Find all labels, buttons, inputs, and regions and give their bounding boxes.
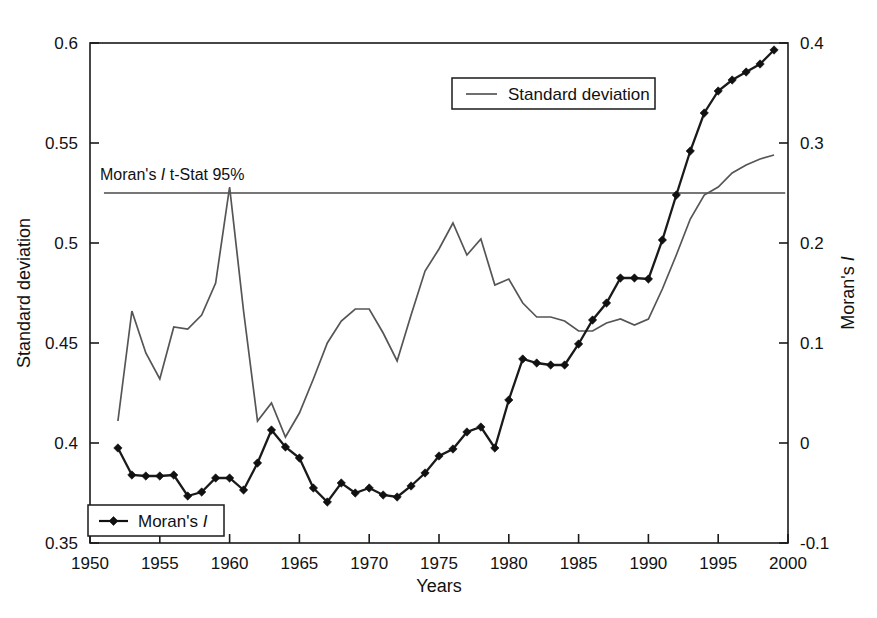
morans-i-data-point — [142, 472, 150, 480]
tstat-annotation-label: Moran's I t-Stat 95% — [100, 166, 244, 183]
y2-tick-label: 0 — [800, 434, 809, 453]
legend-morans-i-label: Moran's I — [138, 512, 208, 531]
series-morans-i — [114, 46, 779, 506]
chart-canvas: 1950195519601965197019751980198519901995… — [0, 0, 877, 618]
x-axis-title: Years — [416, 576, 461, 596]
x-tick-label: 1965 — [280, 554, 318, 573]
y-tick-label: 0.35 — [45, 534, 78, 553]
y2-tick-label: 0.3 — [800, 134, 824, 153]
morans-i-data-point — [630, 274, 638, 282]
x-axis-ticks: 1950195519601965197019751980198519901995… — [71, 534, 807, 573]
y-axis-right-title: Moran's I — [838, 256, 858, 329]
legend-morans-i[interactable]: Moran's I — [88, 505, 224, 536]
y2-tick-label: 0.2 — [800, 234, 824, 253]
morans-i-data-point — [379, 491, 387, 499]
plot-frame — [90, 43, 788, 543]
legend-standard-deviation-label: Standard deviation — [508, 85, 650, 104]
morans-i-data-point — [672, 191, 680, 199]
morans-i-data-point — [156, 472, 164, 480]
morans-i-data-point — [519, 355, 527, 363]
legend-standard-deviation[interactable]: Standard deviation — [452, 78, 655, 109]
x-tick-label: 1975 — [420, 554, 458, 573]
y-axis-left-ticks: 0.350.40.450.50.550.6 — [45, 34, 99, 553]
x-tick-label: 2000 — [769, 554, 807, 573]
x-tick-label: 1950 — [71, 554, 109, 573]
morans-i-data-point — [505, 396, 513, 404]
morans-i-data-point — [128, 471, 136, 479]
y-tick-label: 0.5 — [54, 234, 78, 253]
y2-tick-label: 0.1 — [800, 334, 824, 353]
x-tick-label: 1980 — [490, 554, 528, 573]
x-tick-label: 1960 — [211, 554, 249, 573]
y2-tick-label: 0.4 — [800, 34, 824, 53]
chart-figure: 1950195519601965197019751980198519901995… — [0, 0, 877, 618]
y-tick-label: 0.45 — [45, 334, 78, 353]
y-tick-label: 0.4 — [54, 434, 78, 453]
x-tick-label: 1990 — [629, 554, 667, 573]
morans-i-data-point — [644, 275, 652, 283]
morans-i-data-point — [533, 359, 541, 367]
x-tick-label: 1955 — [141, 554, 179, 573]
morans-i-data-point — [114, 444, 122, 452]
x-tick-label: 1970 — [350, 554, 388, 573]
y-axis-left-title: Standard deviation — [14, 218, 34, 368]
y-axis-right-ticks: -0.100.10.20.30.4 — [779, 34, 829, 553]
morans-i-data-point — [658, 236, 666, 244]
morans-i-data-point — [546, 361, 554, 369]
y2-tick-label: -0.1 — [800, 534, 829, 553]
morans-i-data-point — [365, 484, 373, 492]
y-tick-label: 0.55 — [45, 134, 78, 153]
y-tick-label: 0.6 — [54, 34, 78, 53]
x-tick-label: 1995 — [699, 554, 737, 573]
x-tick-label: 1985 — [560, 554, 598, 573]
morans-i-data-point — [686, 147, 694, 155]
morans-i-data-point — [253, 459, 261, 467]
